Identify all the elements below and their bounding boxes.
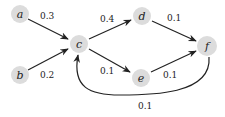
weight-a-c: 0.3 <box>40 11 55 21</box>
node-d-label: d <box>138 10 145 23</box>
node-f: f <box>197 36 217 56</box>
weight-e-f: 0.1 <box>163 70 177 80</box>
weight-f-c: 0.1 <box>138 101 152 111</box>
weight-c-e: 0.1 <box>100 66 114 76</box>
graph-svg: 0.3 0.2 0.4 0.1 0.1 0.1 0.1 a b c d e <box>0 0 225 117</box>
weight-b-c: 0.2 <box>40 70 54 80</box>
weight-c-d: 0.4 <box>100 14 115 24</box>
edge-e-f <box>151 51 196 72</box>
node-a: a <box>11 5 29 23</box>
node-e-label: e <box>138 72 145 85</box>
node-d: d <box>133 7 151 25</box>
graph-diagram: 0.3 0.2 0.4 0.1 0.1 0.1 0.1 a b c d e <box>0 0 225 117</box>
node-b: b <box>11 66 29 84</box>
edge-d-f <box>152 21 196 41</box>
weight-d-f: 0.1 <box>167 13 181 23</box>
node-b-label: b <box>16 69 23 82</box>
edge-a-c <box>28 19 68 39</box>
node-c: c <box>70 35 88 53</box>
node-e: e <box>132 69 150 87</box>
node-a-label: a <box>17 8 24 21</box>
edge-b-c <box>28 49 68 70</box>
node-c-label: c <box>76 38 82 51</box>
